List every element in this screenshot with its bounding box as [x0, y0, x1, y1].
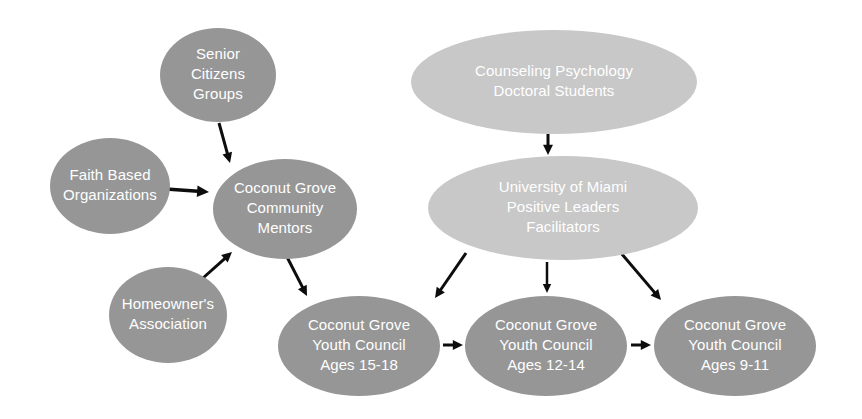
node-label-line: Youth Council: [688, 336, 781, 353]
arrowhead-icon: [641, 340, 651, 350]
node-label-line: Ages 12-14: [507, 356, 585, 373]
edge-shaft: [166, 189, 198, 191]
node-coconut-grove-youth-council-12-14[interactable]: Coconut GroveYouth CouncilAges 12-14: [465, 296, 627, 396]
node-label-line: Positive Leaders: [507, 198, 620, 215]
node-coconut-grove-youth-council-15-18[interactable]: Coconut GroveYouth CouncilAges 15-18: [278, 296, 440, 396]
node-homeowners-association[interactable]: Homeowner'sAssociation: [109, 267, 227, 363]
node-coconut-grove-community-mentors[interactable]: Coconut GroveCommunityMentors: [213, 159, 357, 259]
node-label-line: Coconut Grove: [234, 179, 336, 196]
node-label-line: Homeowner's: [122, 295, 214, 312]
node-label-line: Groups: [193, 85, 243, 102]
edge-mentors-to-youth-council-15-18: [286, 255, 307, 296]
edge-youth-council-15-18-to-12-14: [443, 340, 463, 350]
edge-facilitators-to-youth-council-9-11: [621, 253, 661, 300]
node-label-line: Citizens: [191, 65, 245, 82]
node-label-line: Coconut Grove: [684, 316, 786, 333]
edge-shaft: [440, 253, 466, 290]
edge-youth-council-12-14-to-9-11: [631, 340, 651, 350]
node-label-line: Doctoral Students: [494, 82, 615, 99]
node-label-line: Ages 9-11: [701, 356, 769, 373]
edge-shaft: [286, 255, 303, 288]
arrowhead-icon: [543, 145, 553, 155]
node-university-of-miami-positive-leaders-facilitators[interactable]: University of MiamiPositive LeadersFacil…: [428, 156, 698, 260]
nodes-layer: SeniorCitizensGroupsFaith BasedOrganizat…: [50, 28, 816, 396]
node-label-line: University of Miami: [499, 178, 628, 195]
node-label-line: Organizations: [63, 186, 157, 203]
diagram-canvas: SeniorCitizensGroupsFaith BasedOrganizat…: [0, 0, 862, 419]
arrowhead-icon: [453, 340, 463, 350]
node-faith-based-organizations[interactable]: Faith BasedOrganizations: [50, 138, 170, 234]
arrowhead-icon: [543, 284, 551, 293]
node-label-line: Senior: [196, 45, 240, 62]
arrowhead-icon: [223, 152, 233, 163]
edge-homeowners-to-mentors: [203, 252, 232, 278]
edge-faith-based-to-mentors: [166, 185, 209, 197]
node-label-line: Ages 15-18: [320, 356, 398, 373]
edge-shaft: [203, 258, 225, 278]
node-label-line: Counseling Psychology: [475, 62, 633, 79]
node-coconut-grove-youth-council-9-11[interactable]: Coconut GroveYouth CouncilAges 9-11: [654, 296, 816, 396]
node-label-line: Coconut Grove: [308, 316, 410, 333]
node-label-line: Youth Council: [312, 336, 405, 353]
edge-senior-citizens-to-mentors: [219, 123, 232, 163]
node-label-line: Mentors: [258, 219, 313, 236]
edge-doctoral-students-to-facilitators: [543, 134, 553, 155]
node-label-line: Community: [247, 199, 324, 216]
node-label-line: Coconut Grove: [495, 316, 597, 333]
arrowhead-icon: [197, 185, 209, 197]
node-label-line: Facilitators: [526, 218, 600, 235]
node-label-line: Youth Council: [499, 336, 592, 353]
edge-shaft: [219, 123, 228, 154]
edge-shaft: [621, 253, 655, 293]
flowchart: SeniorCitizensGroupsFaith BasedOrganizat…: [0, 0, 862, 419]
node-label-line: Association: [129, 315, 207, 332]
edge-facilitators-to-youth-council-12-14: [543, 262, 551, 293]
node-counseling-psychology-doctoral-students[interactable]: Counseling PsychologyDoctoral Students: [411, 30, 697, 134]
node-label-line: Faith Based: [69, 166, 150, 183]
edge-facilitators-to-youth-council-15-18: [435, 253, 466, 298]
node-senior-citizens-groups[interactable]: SeniorCitizensGroups: [160, 28, 276, 122]
